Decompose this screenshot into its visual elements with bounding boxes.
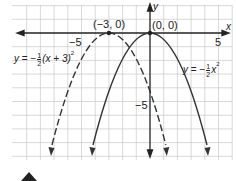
vertex-point-origin bbox=[148, 31, 152, 35]
vertex-label-origin: (0, 0) bbox=[152, 20, 178, 31]
triangle-marker-icon bbox=[21, 172, 37, 181]
y-axis-label: y bbox=[153, 2, 158, 12]
fraction-half: 12 bbox=[37, 52, 41, 67]
arrow-down-icon bbox=[205, 147, 211, 156]
y-axis-up-arrow-icon bbox=[148, 4, 153, 11]
x-tick-label-neg5: −5 bbox=[69, 37, 82, 48]
x-axis-label: x bbox=[226, 22, 231, 32]
vertex-label-shifted: (−3, 0) bbox=[93, 19, 125, 30]
arrow-down-icon bbox=[90, 147, 96, 156]
x-tick-label-5: 5 bbox=[215, 37, 221, 48]
arrow-down-icon bbox=[49, 147, 55, 156]
y-tick-label-neg5: −5 bbox=[135, 100, 148, 111]
fraction-half: 12 bbox=[206, 63, 210, 78]
vertex-point-shifted bbox=[107, 31, 111, 35]
equation-label-shifted: y = −12(x + 3)2 bbox=[14, 52, 74, 67]
arrow-down-icon bbox=[163, 147, 169, 156]
x-axis bbox=[17, 31, 229, 36]
equation-label-base: y = −12x2 bbox=[183, 63, 220, 78]
x-axis-left-arrow-icon bbox=[17, 31, 24, 36]
